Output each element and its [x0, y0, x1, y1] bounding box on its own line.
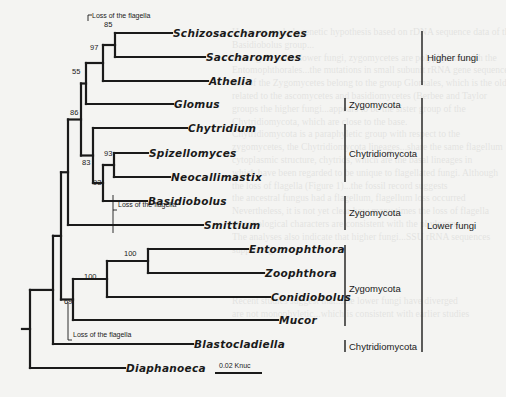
- group-label: Zygomycota: [349, 207, 401, 218]
- taxon-label: Glomus: [174, 98, 220, 110]
- group-label: Zygomycota: [349, 283, 401, 294]
- taxon-label: Athelia: [209, 75, 253, 87]
- bootstrap-value: 100: [84, 272, 97, 281]
- taxon-label: Zoophthora: [265, 267, 337, 279]
- bootstrap-value: 93: [104, 149, 112, 158]
- bootstrap-value: 97: [90, 43, 98, 52]
- taxon-label: Neocallimastix: [171, 171, 262, 183]
- group-label: Higher fungi: [427, 52, 478, 63]
- scale-bar-label: 0.02 Knuc: [219, 362, 251, 369]
- taxon-label: Chytridium: [188, 122, 256, 134]
- flagella-loss-marker: [68, 302, 72, 340]
- group-label: Lower fungi: [427, 220, 476, 231]
- group-label: Zygomycota: [349, 99, 401, 110]
- taxon-label: Entomophthora: [249, 243, 345, 255]
- bootstrap-value: 55: [72, 67, 80, 76]
- bootstrap-value: 83: [82, 158, 90, 167]
- flagella-loss-annotation: Loss of the flagella: [92, 12, 150, 19]
- bootstrap-value: 69: [64, 297, 72, 306]
- bootstrap-value: 85: [104, 20, 112, 29]
- group-label: Chytridiomycota: [349, 341, 417, 352]
- group-label: Chytridiomycota: [349, 148, 417, 159]
- taxon-label: Spizellomyces: [149, 147, 237, 159]
- taxon-label: Conidiobolus: [271, 291, 351, 303]
- flagella-loss-annotation: Loss of the flagella: [118, 201, 176, 208]
- bootstrap-value: 86: [70, 108, 78, 117]
- taxon-label: Schizosaccharomyces: [173, 27, 307, 39]
- taxon-label: Smittium: [204, 219, 261, 231]
- flagella-loss-annotation: Loss of the flagella: [73, 331, 131, 338]
- taxon-label: Saccharomyces: [206, 51, 301, 63]
- taxon-label: Blastocladiella: [194, 338, 285, 350]
- taxon-label: Mucor: [279, 314, 317, 326]
- taxon-label: Diaphanoeca: [126, 362, 206, 374]
- bootstrap-value: 93: [93, 178, 101, 187]
- bootstrap-value: 100: [124, 249, 137, 258]
